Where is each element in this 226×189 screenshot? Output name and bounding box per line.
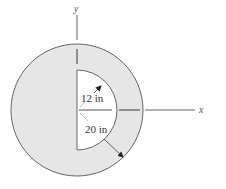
y-axis-label: y <box>73 3 79 14</box>
outer-radius-label: 20 in <box>85 123 108 135</box>
inner-radius-label: 12 in <box>81 92 104 104</box>
diagram-canvas: 12 in 20 in y x <box>0 0 226 189</box>
x-axis-label: x <box>198 104 204 115</box>
